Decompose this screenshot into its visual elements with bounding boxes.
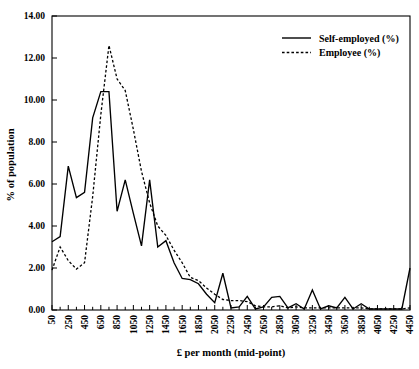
x-tick-label: 50: [47, 315, 57, 325]
x-axis-title: £ per month (mid-point): [177, 347, 286, 359]
y-tick-label: 10.00: [24, 95, 46, 105]
x-tick-label: 1450: [161, 315, 171, 334]
x-tick-label: 3450: [324, 315, 334, 334]
y-tick-label: 14.00: [24, 11, 46, 21]
x-tick-label: 4250: [389, 315, 399, 334]
x-tick-label: 450: [80, 315, 90, 330]
x-tick-label: 3650: [340, 315, 350, 334]
y-tick-label: 0.00: [28, 305, 45, 315]
y-tick-label: 8.00: [28, 137, 45, 147]
y-tick-label: 4.00: [28, 221, 45, 231]
x-tick-label: 4050: [373, 315, 383, 334]
x-tick-label: 2250: [226, 315, 236, 334]
x-tick-label: 3250: [308, 315, 318, 334]
x-tick-label: 2050: [210, 315, 220, 334]
x-tick-label: 850: [112, 315, 122, 330]
legend-label-2: Employee (%): [319, 47, 380, 59]
x-tick-label: 2650: [259, 315, 269, 334]
chart-figure: 0.002.004.006.008.0010.0012.0014.00 5025…: [0, 0, 419, 369]
x-tick-label: 1650: [178, 315, 188, 334]
legend-label-1: Self-employed (%): [319, 33, 399, 45]
x-tick-label: 1050: [129, 315, 139, 334]
x-tick-label: 2850: [275, 315, 285, 334]
x-tick-label: 3050: [291, 315, 301, 334]
y-tick-label: 6.00: [28, 179, 45, 189]
x-tick-label: 3850: [357, 315, 367, 334]
x-tick-label: 650: [96, 315, 106, 330]
y-tick-label: 2.00: [28, 263, 45, 273]
line-chart: 0.002.004.006.008.0010.0012.0014.00 5025…: [0, 0, 419, 369]
x-tick-label: 2450: [243, 315, 253, 334]
x-tick-label: 4450: [405, 315, 415, 334]
x-tick-label: 1250: [145, 315, 155, 334]
y-axis-title: % of population: [5, 128, 16, 201]
x-tick-label: 1850: [194, 315, 204, 334]
x-tick-label: 250: [64, 315, 74, 330]
y-tick-label: 12.00: [24, 53, 46, 63]
